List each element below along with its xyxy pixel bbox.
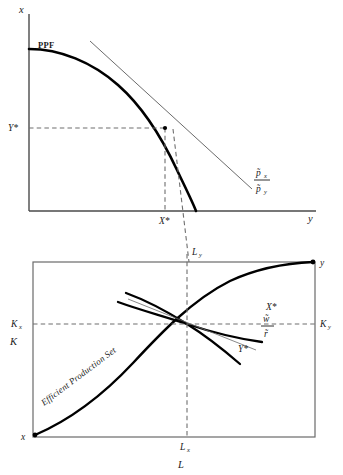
lx-label-sub: x <box>186 446 190 453</box>
ppf-curve-label: PPF <box>38 40 54 50</box>
ppf-y-axis-label: x <box>18 4 24 15</box>
factor-ratio-denominator: r̃ <box>264 329 269 339</box>
ppf-curve <box>29 49 196 211</box>
edgeworth-kx-tick-label: K x <box>10 319 22 330</box>
ppf-equilibrium-point <box>163 126 167 130</box>
origin-y-dot <box>311 260 316 265</box>
ppf-y-tick-label: Y* <box>8 123 18 133</box>
ppf-x-tick-label-group: X* <box>158 216 170 226</box>
edgeworth-box-rect <box>33 262 315 437</box>
origin-x-dot <box>33 433 38 438</box>
edgeworth-lx-tick-label: L x <box>179 442 190 453</box>
price-ratio-numerator-sub: x <box>263 172 267 179</box>
ppf-price-ratio-label: p̃ x p̃ y <box>254 168 270 195</box>
ky-label-sub: y <box>327 323 331 330</box>
isoquant-y-star-label: Y* <box>238 344 248 354</box>
ly-label-sub: y <box>198 251 202 258</box>
kx-label-sub: x <box>18 323 22 330</box>
factor-price-ratio-label: w̃ r̃ <box>261 314 274 339</box>
price-ratio-numerator: p̃ <box>255 168 261 178</box>
origin-y-label: y <box>319 258 325 268</box>
ppf-x-tick-label: X* <box>158 216 170 226</box>
ppf-panel: x y PPF Y* X* p̃ x <box>8 4 316 226</box>
ly-label: L <box>191 247 197 257</box>
economics-figure: x y PPF Y* X* p̃ x <box>0 0 343 475</box>
edgeworth-k-axis-label: K <box>9 336 18 347</box>
ppf-y-tick-label-group: Y* <box>8 123 18 133</box>
ppf-price-line <box>90 41 252 189</box>
origin-x-label: x <box>20 432 26 442</box>
factor-ratio-numerator: w̃ <box>263 314 270 324</box>
contract-curve-label: Efficient Production Set <box>38 345 118 409</box>
edgeworth-box-panel: x y K L K x K y L y L <box>9 247 331 470</box>
lx-label: L <box>179 442 185 452</box>
kx-label: K <box>10 319 18 329</box>
edgeworth-l-axis-label: L <box>177 459 184 470</box>
edgeworth-ly-tick-label: L y <box>191 247 202 258</box>
contract-curve <box>35 262 313 435</box>
ky-label: K <box>319 319 327 329</box>
edgeworth-ky-tick-label: K y <box>319 319 331 330</box>
figure-canvas: x y PPF Y* X* p̃ x <box>0 0 343 475</box>
panel-link-dashed-line <box>173 129 189 262</box>
isoquant-x-star-label: X* <box>265 302 277 312</box>
price-ratio-denominator: p̃ <box>255 184 261 194</box>
ppf-x-axis-label: y <box>307 213 313 224</box>
price-ratio-denominator-sub: y <box>263 188 267 195</box>
